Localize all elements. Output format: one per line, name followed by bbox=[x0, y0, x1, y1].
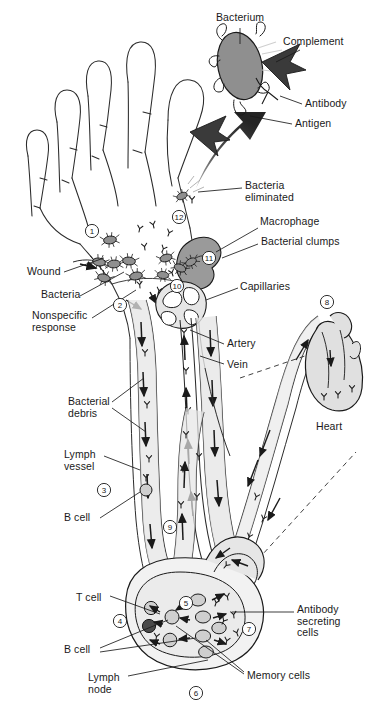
step-marker-11: 11 bbox=[202, 251, 215, 264]
label-heart: Heart bbox=[316, 421, 342, 433]
bacteria-at-wound bbox=[88, 232, 146, 288]
label-lymph-node: Lymph node bbox=[88, 672, 120, 695]
label-capillaries: Capillaries bbox=[240, 281, 290, 293]
step-marker-label: 7 bbox=[247, 625, 252, 634]
label-wound: Wound bbox=[27, 266, 61, 278]
zoom-callout-arrow bbox=[196, 112, 266, 188]
label-antigen: Antigen bbox=[295, 118, 331, 130]
label-macrophage: Macrophage bbox=[260, 216, 319, 228]
step-marker-9: 9 bbox=[163, 520, 176, 533]
b-cell-in-lymph bbox=[140, 484, 152, 496]
label-memory-cells: Memory cells bbox=[247, 670, 310, 682]
step-marker-label: 8 bbox=[325, 298, 330, 307]
step-marker-1: 1 bbox=[85, 224, 98, 237]
lymph-node bbox=[126, 537, 264, 670]
label-artery: Artery bbox=[227, 338, 256, 350]
complement-wedge-2 bbox=[190, 116, 230, 156]
label-complement: Complement bbox=[283, 36, 344, 48]
label-lymph-vessel: Lymph vessel bbox=[64, 449, 96, 472]
label-b-cell-lower: B cell bbox=[64, 644, 90, 656]
lymph-vessel bbox=[128, 300, 172, 576]
label-bacteria: Bacteria bbox=[41, 289, 80, 301]
step-marker-label: 3 bbox=[102, 486, 107, 495]
immune-response-figure: 123456789101112 Bacterium Complement Ant… bbox=[0, 0, 374, 709]
label-t-cell: T cell bbox=[76, 592, 102, 604]
step-marker-12: 12 bbox=[172, 210, 185, 223]
step-marker-5: 5 bbox=[179, 596, 192, 609]
step-marker-8: 8 bbox=[320, 295, 333, 308]
label-bacterial-clumps: Bacterial clumps bbox=[261, 236, 340, 248]
label-vein: Vein bbox=[227, 359, 248, 371]
step-marker-7: 7 bbox=[242, 622, 255, 635]
step-marker-6: 6 bbox=[189, 686, 202, 699]
label-bacterium: Bacterium bbox=[216, 12, 264, 24]
step-marker-10: 10 bbox=[170, 279, 183, 292]
label-antibody: Antibody bbox=[305, 98, 347, 110]
step-marker-label: 11 bbox=[205, 254, 214, 263]
label-antibody-secreting-cells: Antibody secreting cells bbox=[297, 604, 341, 639]
complement-wedge bbox=[262, 44, 306, 90]
step-marker-label: 12 bbox=[175, 213, 184, 222]
label-b-cell-upper: B cell bbox=[64, 512, 90, 524]
step-marker-3: 3 bbox=[97, 483, 110, 496]
label-nonspecific-response: Nonspecific response bbox=[32, 310, 87, 333]
step-marker-label: 5 bbox=[184, 599, 189, 608]
step-marker-label: 1 bbox=[90, 227, 95, 236]
step-marker-label: 6 bbox=[194, 689, 199, 698]
step-marker-label: 10 bbox=[173, 282, 182, 291]
label-bacterial-debris: Bacterial debris bbox=[68, 396, 110, 419]
label-bacteria-eliminated: Bacteria eliminated bbox=[245, 180, 294, 203]
step-marker-label: 9 bbox=[168, 523, 173, 532]
step-marker-label: 4 bbox=[118, 617, 123, 626]
step-marker-2: 2 bbox=[113, 298, 126, 311]
step-marker-4: 4 bbox=[113, 614, 126, 627]
step-marker-label: 2 bbox=[118, 301, 123, 310]
